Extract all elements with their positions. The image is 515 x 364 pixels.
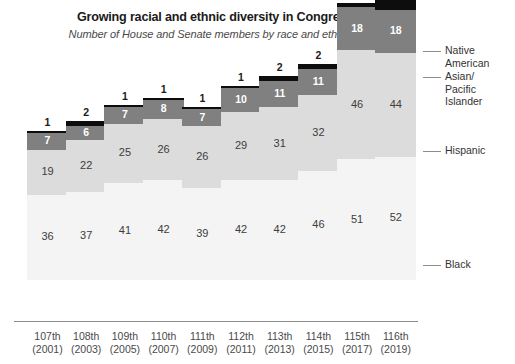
bar-segment[interactable]: 42	[221, 180, 262, 280]
bar-segment[interactable]: 18	[337, 7, 378, 50]
bar-segment[interactable]: 29	[221, 112, 262, 181]
bar-value-label: 42	[259, 224, 300, 235]
bar-segment[interactable]: 11	[259, 81, 300, 107]
bar-stack: 172541	[104, 105, 145, 280]
bar-value-label: 32	[298, 127, 339, 138]
bar-group[interactable]: 172639	[182, 107, 223, 280]
bar-group[interactable]: 262237	[66, 121, 107, 280]
bar-value-label: 2	[298, 50, 339, 61]
plot-area: 1719362622371725411826421726391102942211…	[0, 0, 430, 322]
x-axis-tick-label: 116th(2019)	[370, 330, 422, 356]
bar-group[interactable]: 2113142	[259, 76, 300, 280]
bar-value-label: 1	[221, 72, 262, 83]
bar-value-label: 18	[375, 25, 416, 36]
bar-group[interactable]: 4184452	[375, 0, 416, 280]
bar-segment[interactable]: 46	[337, 50, 378, 159]
bar-stack: 4184452	[375, 0, 416, 280]
bar-value-label: 26	[182, 151, 223, 162]
bar-value-label: 46	[298, 219, 339, 230]
bar-value-label: 46	[337, 99, 378, 110]
bar-value-label: 8	[143, 103, 184, 114]
bar-value-label: 22	[66, 160, 107, 171]
bar-value-label: 11	[259, 88, 300, 99]
bar-segment[interactable]: 26	[143, 119, 184, 181]
x-tick-congress-number: 116th	[370, 330, 422, 343]
bar-value-label: 52	[375, 212, 416, 223]
legend-rule-black	[423, 265, 441, 266]
bar-segment[interactable]: 25	[104, 124, 145, 183]
bar-value-label: 7	[27, 135, 68, 146]
bar-segment[interactable]: 52	[375, 157, 416, 280]
bar-group[interactable]: 1102942	[221, 86, 262, 280]
bar-segment[interactable]: 42	[143, 180, 184, 280]
bar-value-label: 7	[182, 112, 223, 123]
bar-segment[interactable]: 18	[375, 10, 416, 53]
bar-group[interactable]: 171936	[27, 131, 68, 280]
bar-segment[interactable]: 51	[337, 159, 378, 280]
bar-value-label: 36	[27, 231, 68, 242]
bar-segment[interactable]: 6	[66, 126, 107, 140]
bar-group[interactable]: 2184651	[337, 3, 378, 280]
bar-segment[interactable]: 44	[375, 53, 416, 157]
bar-segment[interactable]: 8	[143, 100, 184, 119]
bar-segment[interactable]: 39	[182, 188, 223, 280]
bar-value-label: 2	[66, 107, 107, 118]
bar-segment[interactable]: 4	[375, 0, 416, 9]
bar-segment[interactable]: 10	[221, 88, 262, 112]
bar-value-label: 2	[259, 62, 300, 73]
bar-group[interactable]: 2113246	[298, 64, 339, 280]
bar-group[interactable]: 172541	[104, 105, 145, 280]
bar-value-label: 31	[259, 138, 300, 149]
x-tick-year: (2019)	[370, 343, 422, 356]
bar-value-label: 19	[27, 166, 68, 177]
bar-segment[interactable]: 7	[104, 107, 145, 124]
bar-segment[interactable]: 36	[27, 195, 68, 280]
bar-value-label: 11	[298, 76, 339, 87]
bar-segment[interactable]: 42	[259, 180, 300, 280]
bar-segment[interactable]: 31	[259, 107, 300, 180]
x-axis-line	[14, 321, 418, 322]
bar-value-label: 7	[104, 109, 145, 120]
bar-value-label: 29	[221, 140, 262, 151]
legend-rule-native-american	[423, 51, 441, 52]
bar-value-label: 1	[143, 84, 184, 95]
legend-label-hispanic: Hispanic	[445, 144, 485, 157]
bar-value-label: 1	[27, 117, 68, 128]
bar-segment[interactable]: 19	[27, 150, 68, 195]
bar-stack: 2113246	[298, 64, 339, 280]
bar-segment[interactable]: 32	[298, 95, 339, 171]
bar-stack: 172639	[182, 107, 223, 280]
bar-value-label: 39	[182, 228, 223, 239]
legend-rule-asian-pacific-islander	[423, 77, 441, 78]
bar-segment[interactable]: 7	[27, 133, 68, 150]
bar-value-label: 18	[337, 23, 378, 34]
bar-value-label: 10	[221, 94, 262, 105]
legend-rule-hispanic	[423, 151, 441, 152]
bar-segment[interactable]: 22	[66, 140, 107, 192]
bar-segment[interactable]: 37	[66, 192, 107, 280]
bar-value-label: 1	[104, 91, 145, 102]
bar-value-label: 1	[182, 93, 223, 104]
bar-value-label: 51	[337, 214, 378, 225]
bar-value-label: 6	[66, 127, 107, 138]
chart-root: Growing racial and ethnic diversity in C…	[0, 0, 515, 364]
bar-value-label: 41	[104, 225, 145, 236]
bar-segment[interactable]: 7	[182, 109, 223, 126]
bar-group[interactable]: 182642	[143, 98, 184, 280]
bar-segment[interactable]: 46	[298, 171, 339, 280]
bar-segment[interactable]: 26	[182, 126, 223, 188]
bar-stack: 1102942	[221, 86, 262, 280]
bar-value-label: 42	[143, 224, 184, 235]
bar-segment[interactable]: 11	[298, 69, 339, 95]
bar-stack: 182642	[143, 98, 184, 280]
bar-segment[interactable]: 41	[104, 183, 145, 280]
bar-stack: 171936	[27, 131, 68, 280]
bar-value-label: 44	[375, 99, 416, 110]
bar-stack: 262237	[66, 121, 107, 280]
bar-value-label: 37	[66, 230, 107, 241]
bar-value-label: 26	[143, 144, 184, 155]
legend-label-asian-pacific-islander: Asian/ Pacific Islander	[445, 70, 482, 108]
bar-value-label: 25	[104, 147, 145, 158]
legend-label-native-american: Native American	[445, 44, 489, 69]
legend-label-black: Black	[445, 258, 471, 271]
